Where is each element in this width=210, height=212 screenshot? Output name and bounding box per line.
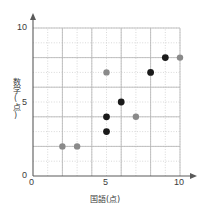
data-point	[59, 143, 65, 149]
y-axis-tick-label: 0	[22, 171, 27, 180]
y-axis-tick-label: 10	[17, 23, 27, 32]
y-axis-title: 数学(点)	[10, 78, 21, 120]
y-axis-tick-label: 5	[22, 98, 27, 107]
data-point	[103, 69, 109, 75]
data-point	[177, 54, 183, 60]
scatter-chart: 10 5 0 0 5 10 国語(点) 数学(点)	[0, 0, 210, 212]
y-axis-arrow	[30, 13, 36, 20]
grid-lines	[33, 28, 180, 176]
data-point	[103, 113, 110, 120]
data-point	[103, 128, 110, 135]
data-point	[74, 143, 80, 149]
x-axis-arrow	[190, 173, 197, 179]
data-point	[118, 99, 125, 106]
data-point	[133, 114, 139, 120]
x-axis-tick-label: 0	[29, 178, 34, 187]
x-axis-tick-label: 5	[103, 178, 108, 187]
data-point	[162, 54, 169, 61]
x-axis-title: 国語(点)	[0, 193, 210, 204]
x-axis-tick-label: 10	[174, 178, 184, 187]
data-point	[147, 69, 154, 76]
axes	[30, 13, 197, 179]
